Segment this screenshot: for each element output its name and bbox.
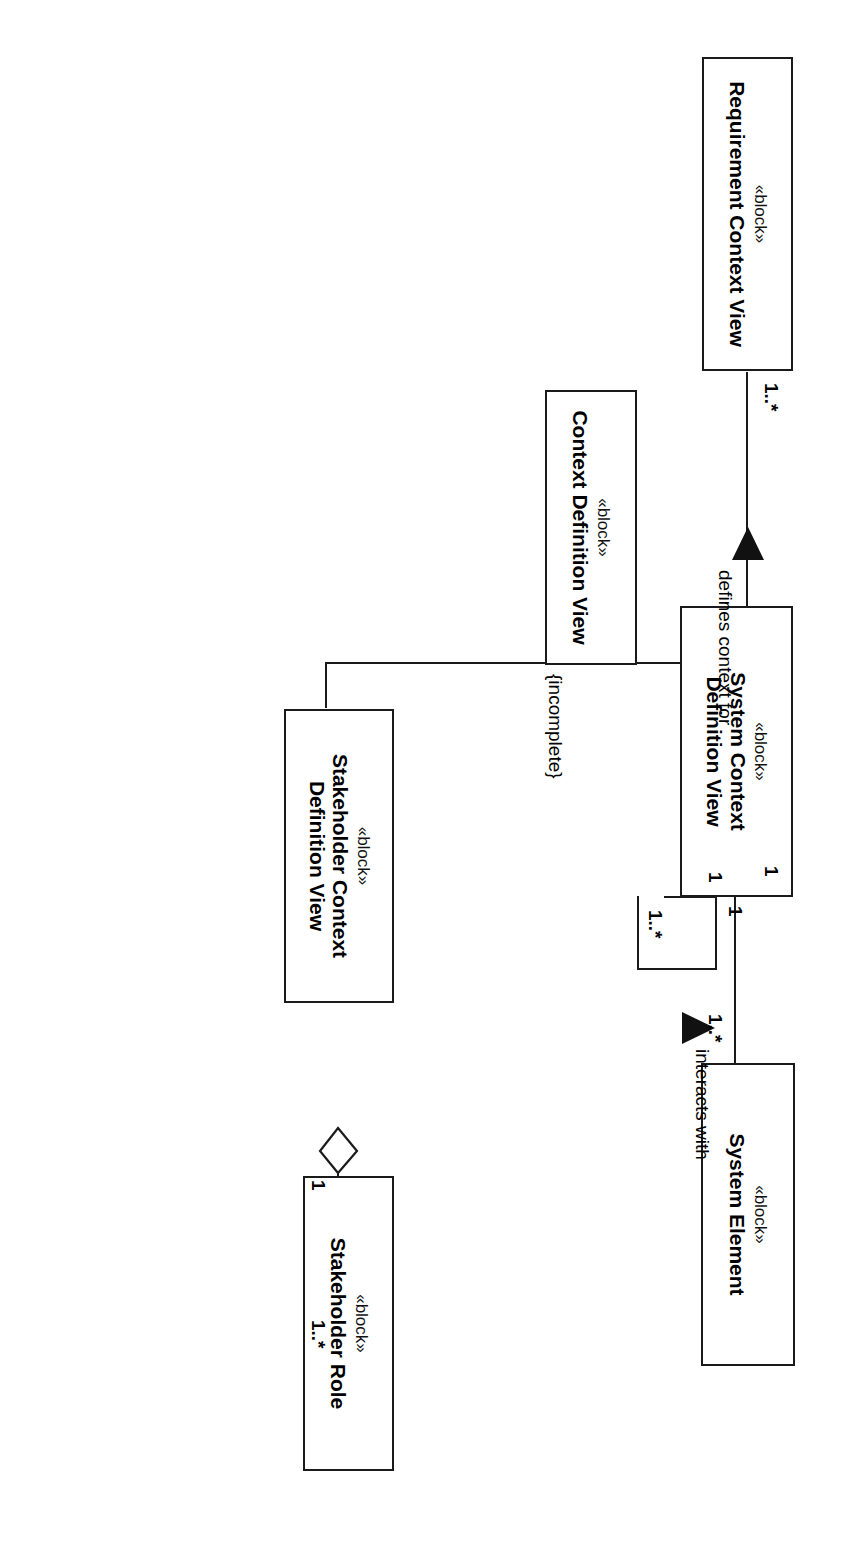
label-incomplete-constraint: {incomplete} (544, 674, 566, 779)
block-stereotype: «block» (750, 1185, 770, 1244)
block-stakeholder-context-definition-view[interactable]: «block» Stakeholder Context Definition V… (284, 709, 394, 1003)
multiplicity-stakeholder-context-aggregation-whole: 1 (307, 1180, 329, 1191)
block-stereotype: «block» (351, 1294, 371, 1353)
block-name-line-1: Stakeholder Context (329, 750, 353, 962)
multiplicity-requirement-context-view: 1..* (760, 383, 782, 412)
diagram-canvas: «block» Requirement Context View «block»… (0, 0, 856, 1561)
connector-generalization-spine (326, 662, 724, 664)
label-defines-context-for: defines context for (714, 570, 736, 725)
connector-generalization-branch-stakeholder (325, 662, 327, 708)
multiplicity-stakeholder-role-part: 1..* (307, 1320, 329, 1349)
multiplicity-context-definition-view: 1 (760, 866, 782, 877)
block-name: System Element (726, 1129, 750, 1299)
block-definition-diagram: «block» Requirement Context View «block»… (0, 0, 856, 1561)
block-stereotype: «block» (750, 185, 770, 244)
block-context-definition-view[interactable]: «block» Context Definition View (545, 390, 637, 665)
defines-context-for-direction-triangle (732, 527, 764, 561)
multiplicity-system-element-part: 1..* (704, 1014, 726, 1043)
block-stereotype: «block» (593, 498, 613, 557)
connector-self-loop-top (715, 896, 717, 970)
block-system-element[interactable]: «block» System Element (701, 1063, 795, 1366)
block-system-context-definition-view[interactable]: «block» System Context Definition View (680, 606, 793, 897)
block-requirement-context-view[interactable]: «block» Requirement Context View (702, 57, 793, 371)
multiplicity-system-element-self-target: 1..* (644, 910, 666, 939)
block-stereotype: «block» (751, 722, 771, 781)
connector-self-loop-bottom (637, 896, 639, 970)
multiplicity-system-context-aggregation-whole: 1 (704, 872, 726, 883)
label-interacts-with: interacts with (691, 1049, 713, 1160)
block-name: Context Definition View (569, 406, 593, 648)
block-name: Stakeholder Role (326, 1234, 350, 1414)
block-name-line-2: Definition View (305, 777, 329, 935)
connector-self-loop-right (637, 968, 717, 970)
multiplicity-system-element-self-source: 1 (724, 906, 746, 917)
block-name: Requirement Context View (725, 77, 749, 351)
block-stereotype: «block» (353, 827, 373, 886)
aggregation-diamond-stakeholder-context (319, 1128, 357, 1174)
